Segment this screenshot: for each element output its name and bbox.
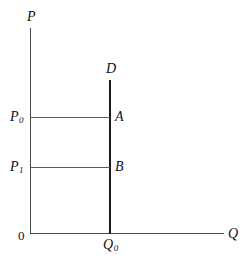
price-low-guide-line <box>30 167 110 168</box>
quantity-value-label-subscript: 0 <box>114 243 119 253</box>
quantity-value-label: Q0 <box>103 238 118 252</box>
quantity-value-label-text: Q <box>103 237 113 252</box>
origin-label: 0 <box>18 229 25 242</box>
price-high-label: P0 <box>10 110 23 124</box>
price-low-label-text: P <box>10 159 19 174</box>
price-axis-line <box>30 28 31 234</box>
price-high-label-subscript: 0 <box>19 115 24 125</box>
demand-curve-label: D <box>106 62 116 76</box>
price-axis-label: P <box>27 10 36 24</box>
price-low-label-subscript: 1 <box>19 165 24 175</box>
quantity-axis-label: Q <box>228 227 238 241</box>
price-high-guide-line <box>30 117 110 118</box>
price-high-label-text: P <box>10 109 19 124</box>
quantity-axis-line <box>30 233 224 234</box>
demand-curve-line <box>109 80 111 234</box>
price-low-label: P1 <box>10 160 23 174</box>
economics-figure: P Q 0 D P0 P1 Q0 A B <box>0 0 249 265</box>
point-b-label: B <box>115 160 124 174</box>
point-a-label: A <box>115 110 124 124</box>
